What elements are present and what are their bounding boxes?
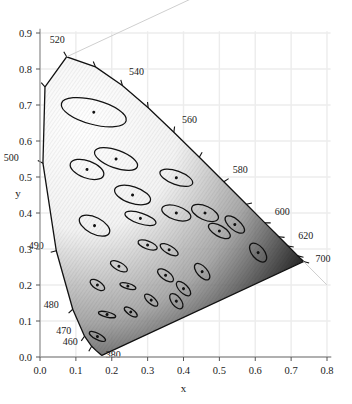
x-tick-label: 0.1	[69, 365, 82, 376]
y-tick-label: 0.7	[19, 100, 32, 111]
wavelength-label-480: 480	[44, 299, 59, 310]
cie-chromaticity-plot: 520540560580600620700500490480470460380 …	[0, 0, 352, 404]
chromaticity-diagram-figure: 520540560580600620700500490480470460380 …	[0, 0, 352, 404]
y-tick-label: 0.6	[19, 136, 32, 147]
wavelength-label-620: 620	[298, 230, 313, 241]
wavelength-label-380: 380	[106, 349, 121, 360]
x-tick-label: 0.5	[213, 365, 226, 376]
x-tick-label: 0.3	[141, 365, 154, 376]
x-tick-label: 0.6	[249, 365, 262, 376]
wavelength-label-560: 560	[182, 114, 197, 125]
wavelength-label-470: 470	[56, 325, 71, 336]
spectral-tick	[148, 102, 149, 108]
x-tick-label: 0.7	[285, 365, 298, 376]
y-tick-label: 0.2	[19, 280, 32, 291]
y-tick-label: 0.4	[19, 208, 33, 219]
wavelength-label-580: 580	[233, 164, 248, 175]
wavelength-label-520: 520	[50, 34, 65, 45]
y-tick-label: 0.8	[19, 64, 32, 75]
y-tick-label: 0.9	[19, 28, 32, 39]
wavelength-label-600: 600	[275, 206, 290, 217]
y-tick-label: 0.3	[19, 244, 32, 255]
wavelength-label-700: 700	[316, 253, 331, 264]
y-tick-label: 0.1	[19, 316, 32, 327]
x-tick-label: 0.2	[105, 365, 118, 376]
wavelength-label-500: 500	[4, 152, 19, 163]
wavelength-label-460: 460	[63, 336, 78, 347]
y-axis-title: y	[15, 187, 21, 199]
x-tick-label: 0.0	[33, 365, 46, 376]
wavelength-label-540: 540	[129, 66, 144, 77]
x-tick-label: 0.4	[177, 365, 191, 376]
y-tick-label: 0.0	[19, 352, 32, 363]
spectral-tick	[279, 237, 285, 238]
spectral-tick	[174, 126, 175, 132]
x-axis-title: x	[181, 382, 187, 394]
x-tick-label: 0.8	[320, 365, 333, 376]
y-tick-label: 0.5	[19, 172, 32, 183]
